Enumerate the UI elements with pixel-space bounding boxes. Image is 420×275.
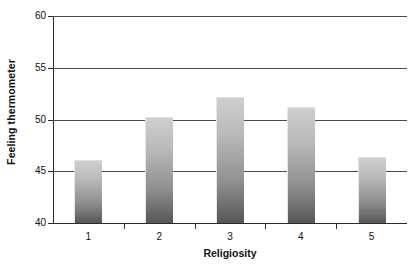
bar-5 [358, 157, 386, 223]
x-tick-mark-1 [124, 224, 125, 229]
y-tick-mark-50 [48, 120, 53, 121]
bar-4 [287, 107, 315, 223]
gridline-y-55 [53, 68, 407, 69]
y-tick-label-60: 60 [24, 11, 46, 21]
plot-area [53, 16, 407, 223]
y-tick-mark-45 [48, 171, 53, 172]
bar-2 [145, 117, 173, 223]
x-tick-label-4: 4 [298, 231, 304, 242]
y-tick-mark-55 [48, 68, 53, 69]
gridline-y-60 [53, 16, 407, 17]
bar-3 [216, 97, 244, 223]
x-tick-label-1: 1 [86, 231, 92, 242]
y-axis-tick-labels: 4045505560 [22, 0, 46, 275]
x-tick-mark-2 [195, 224, 196, 229]
y-axis-title-text: Feeling thermometer [5, 59, 17, 165]
y-tick-mark-60 [48, 16, 53, 17]
x-tick-label-5: 5 [369, 231, 375, 242]
y-tick-label-55: 55 [24, 63, 46, 73]
y-tick-label-40: 40 [24, 218, 46, 228]
x-tick-label-2: 2 [156, 231, 162, 242]
x-tick-label-3: 3 [227, 231, 233, 242]
y-axis-title: Feeling thermometer [0, 0, 22, 223]
x-axis-title: Religiosity [53, 247, 407, 259]
y-tick-label-50: 50 [24, 115, 46, 125]
x-axis-line [53, 223, 407, 224]
y-tick-mark-40 [48, 223, 53, 224]
bar-1 [74, 160, 102, 223]
x-tick-mark-4 [336, 224, 337, 229]
x-tick-mark-3 [265, 224, 266, 229]
y-tick-label-45: 45 [24, 166, 46, 176]
bar-chart: Feeling thermometer 4045505560 Religiosi… [0, 0, 420, 275]
